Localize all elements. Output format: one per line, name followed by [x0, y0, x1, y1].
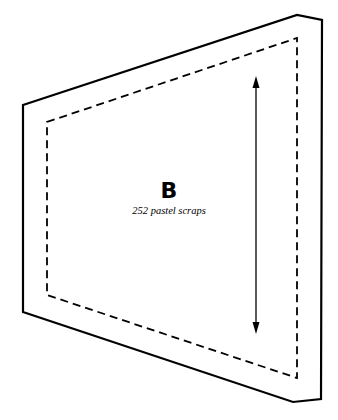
piece-letter: B: [0, 180, 338, 202]
arrow-down-icon: [253, 322, 260, 334]
arrow-up-icon: [253, 76, 260, 88]
piece-caption: 252 pastel scraps: [0, 205, 338, 217]
pattern-piece-diagram: B 252 pastel scraps: [0, 0, 338, 420]
